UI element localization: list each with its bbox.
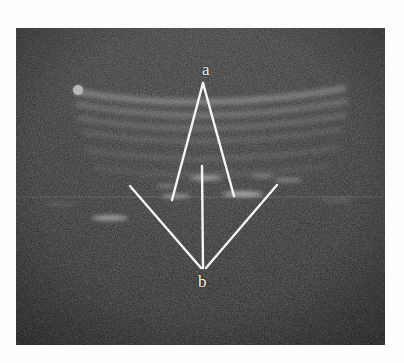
measurement-line-vertical-axis [202, 166, 203, 268]
measurement-line-upper-v-right [203, 83, 234, 196]
measurement-line-upper-v-left [172, 83, 203, 200]
measurement-annotation-layer [16, 28, 385, 345]
annotation-label-a: a [202, 61, 210, 78]
ultrasound-image: a b [16, 28, 385, 345]
annotation-label-b: b [198, 273, 207, 290]
figure-root: a b [0, 0, 404, 363]
probe-orientation-marker-dot [73, 85, 83, 95]
measurement-line-lower-v-right [206, 185, 277, 268]
measurement-line-lower-v-left [130, 186, 201, 268]
